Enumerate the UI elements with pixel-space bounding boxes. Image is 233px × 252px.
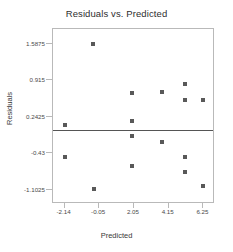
x-tick-mark [168,203,169,208]
data-point [91,42,95,46]
data-point [160,90,164,94]
y-tick-label: -1.1025 [1,185,45,192]
data-point [201,98,205,102]
y-tick-label: 1.5875 [1,39,45,46]
y-tick-label: 0.2425 [1,112,45,119]
x-tick-label: 6.25 [196,208,208,215]
x-tick-mark [64,203,65,208]
x-tick-label: 2.05 [127,208,139,215]
data-point [183,82,187,86]
plot-area [52,28,214,203]
data-point [130,119,134,123]
data-point [130,164,134,168]
x-tick-mark [202,203,203,208]
x-tick-label: 4.15 [162,208,174,215]
data-point [130,91,134,95]
data-point [201,184,205,188]
chart-title: Residuals vs. Predicted [0,8,233,19]
y-tick-label: 0.915 [1,76,45,83]
x-tick-mark [133,203,134,208]
residuals-vs-predicted-chart: Residuals vs. Predicted Residuals 1.5875… [0,0,233,252]
x-axis-title: Predicted [0,231,233,240]
data-point [63,123,67,127]
data-point [63,155,67,159]
data-point [130,134,134,138]
data-point [92,187,96,191]
x-tick-label: -2.14 [57,208,71,215]
data-point [183,155,187,159]
data-point [183,170,187,174]
data-point [183,98,187,102]
y-axis-title: Residuals [5,74,14,144]
x-tick-mark [98,203,99,208]
x-tick-label: -0.05 [91,208,105,215]
data-point [160,140,164,144]
zero-reference-line [53,130,213,131]
plot-inner [53,29,213,202]
y-tick-label: -0.43 [1,149,45,156]
